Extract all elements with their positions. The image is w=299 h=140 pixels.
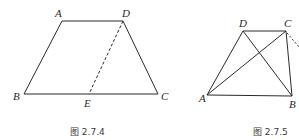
segment-CB: [286, 31, 292, 96]
figure-2-7-5: [207, 31, 299, 96]
label-C: C: [161, 90, 169, 102]
label-B: B: [13, 90, 20, 102]
figure-2-7-4: [24, 21, 158, 94]
caption-figure-2-7-5: 图 2.7.5: [253, 127, 288, 137]
label-E: E: [83, 97, 91, 109]
segment-AB: [24, 21, 62, 94]
label-A2: A: [198, 92, 206, 104]
label-C2: C: [284, 17, 292, 29]
caption-figure-2-7-4: 图 2.7.4: [70, 127, 105, 137]
dashed-segment-DE: [89, 21, 123, 94]
diagonal-AC: [207, 31, 286, 95]
label-A: A: [54, 7, 62, 19]
segment-AB: [207, 95, 292, 96]
dashed-extension-C: [287, 33, 299, 47]
label-B2: B: [289, 98, 296, 110]
diagonal-DB: [243, 31, 292, 96]
label-D: D: [121, 7, 130, 19]
figures-canvas: A D B C E 图 2.7.4 D C A B 图 2.7.5: [0, 0, 299, 140]
label-D2: D: [238, 17, 247, 29]
segment-AD: [207, 31, 243, 95]
segment-DC: [123, 21, 158, 94]
